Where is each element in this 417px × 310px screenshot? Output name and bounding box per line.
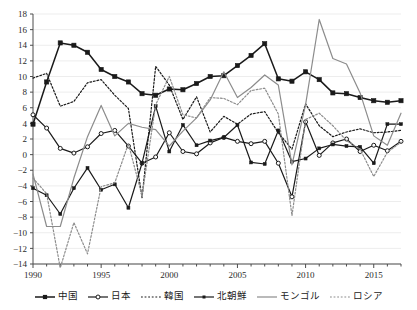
data-point-marker — [113, 74, 117, 78]
legend-label-mongolia: モンゴル — [280, 292, 320, 302]
data-point-marker — [276, 77, 280, 81]
y-tick-label: 10 — [18, 72, 28, 82]
data-point-marker — [304, 157, 307, 160]
x-tick-label: 1990 — [24, 270, 43, 280]
y-tick-label: −8 — [17, 212, 27, 222]
series-line-north_korea — [33, 106, 401, 214]
data-point-marker — [154, 93, 158, 97]
legend-swatch-japan — [87, 292, 109, 302]
chart-legend: 中国日本韓国北朝鮮モンゴルロシア — [0, 286, 417, 308]
y-tick-label: 12 — [18, 56, 27, 66]
y-tick-label: −6 — [17, 197, 27, 207]
data-point-marker — [181, 123, 184, 126]
data-point-marker — [331, 143, 334, 146]
data-point-marker — [277, 129, 280, 132]
data-point-marker — [290, 195, 294, 199]
y-tick-label: 14 — [18, 40, 28, 50]
data-point-marker — [181, 150, 185, 154]
legend-swatch-china — [34, 292, 56, 302]
data-point-marker — [99, 67, 103, 71]
legend-item-russia[interactable]: ロシア — [329, 292, 383, 302]
legend-item-korea[interactable]: 韓国 — [140, 292, 184, 302]
y-tick-label: −10 — [13, 228, 28, 238]
data-point-marker — [249, 142, 253, 146]
data-point-marker — [86, 166, 89, 169]
legend-item-japan[interactable]: 日本 — [87, 292, 131, 302]
data-point-marker — [318, 147, 321, 150]
x-tick-label: 1995 — [92, 270, 111, 280]
data-point-marker — [59, 213, 62, 216]
data-point-marker — [194, 81, 198, 85]
data-point-marker — [290, 79, 294, 83]
series-line-russia — [33, 77, 401, 268]
y-tick-label: 0 — [23, 150, 28, 160]
data-point-marker — [263, 139, 267, 143]
data-point-marker — [72, 151, 76, 155]
data-point-marker — [31, 122, 35, 126]
legend-swatch-mongolia — [256, 292, 278, 302]
data-point-marker — [236, 123, 239, 126]
series-russia — [33, 77, 401, 268]
data-point-marker — [235, 63, 239, 67]
series-north_korea — [32, 105, 403, 216]
data-point-marker — [58, 146, 62, 150]
data-point-marker — [31, 113, 35, 117]
y-tick-label: 8 — [23, 87, 28, 97]
data-point-marker — [372, 99, 376, 103]
y-axis-tick-labels: −14−12−10−8−6−4−2024681012141618 — [13, 9, 28, 269]
legend-label-china: 中国 — [58, 292, 78, 302]
legend-item-mongolia[interactable]: モンゴル — [256, 292, 320, 302]
data-point-marker — [45, 80, 49, 84]
data-point-marker — [168, 150, 171, 153]
y-tick-label: −14 — [13, 259, 28, 269]
legend-swatch-korea — [140, 292, 162, 302]
data-series-group — [31, 19, 403, 267]
y-tick-label: −4 — [17, 181, 27, 191]
data-point-marker — [317, 78, 321, 82]
legend-label-japan: 日本 — [111, 292, 131, 302]
data-point-marker — [195, 144, 198, 147]
data-point-marker — [99, 132, 103, 136]
legend-item-china[interactable]: 中国 — [34, 292, 78, 302]
x-tick-label: 2005 — [228, 270, 247, 280]
data-point-marker — [250, 161, 253, 164]
data-point-marker — [58, 41, 62, 45]
data-point-marker — [344, 92, 348, 96]
data-point-marker — [263, 42, 267, 46]
data-point-marker — [141, 162, 144, 165]
legend-item-north_korea[interactable]: 北朝鮮 — [193, 292, 247, 302]
legend-swatch-russia — [329, 292, 351, 302]
x-tick-label: 2015 — [365, 270, 384, 280]
data-point-marker — [208, 74, 212, 78]
chart-canvas: −14−12−10−8−6−4−2024681012141618 1990199… — [0, 0, 417, 310]
data-point-marker — [126, 80, 130, 84]
data-point-marker — [303, 70, 307, 74]
data-point-marker — [72, 43, 76, 47]
data-point-marker — [32, 187, 35, 190]
y-tick-label: 6 — [23, 103, 28, 113]
x-tick-label: 2000 — [160, 270, 179, 280]
data-point-marker — [386, 123, 389, 126]
data-point-marker — [359, 145, 362, 148]
gdp-growth-line-chart: −14−12−10−8−6−4−2024681012141618 1990199… — [0, 0, 417, 310]
data-point-marker — [317, 153, 321, 157]
data-point-marker — [235, 139, 239, 143]
y-tick-label: 16 — [18, 25, 28, 35]
data-point-marker — [263, 163, 266, 166]
data-point-marker — [154, 155, 158, 159]
data-point-marker — [86, 145, 90, 149]
legend-label-korea: 韓国 — [164, 292, 184, 302]
data-point-marker — [400, 123, 403, 126]
data-point-marker — [399, 99, 403, 103]
y-tick-label: −2 — [17, 165, 27, 175]
legend-label-north_korea: 北朝鮮 — [217, 292, 247, 302]
legend-marker — [96, 295, 100, 299]
y-tick-label: 18 — [18, 9, 28, 19]
data-point-marker — [372, 143, 376, 147]
series-line-china — [33, 43, 401, 124]
series-line-japan — [33, 115, 401, 197]
data-point-marker — [222, 136, 225, 139]
data-point-marker — [276, 161, 280, 165]
y-tick-label: 2 — [23, 134, 28, 144]
data-point-marker — [140, 92, 144, 96]
